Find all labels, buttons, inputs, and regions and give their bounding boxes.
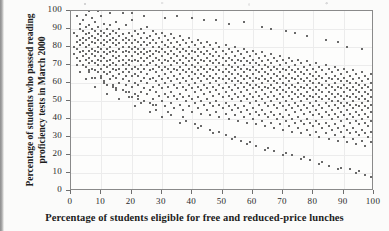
data-point (318, 89, 320, 91)
data-point (167, 96, 169, 98)
data-point (128, 71, 130, 73)
data-point (185, 64, 187, 66)
data-point (218, 116, 220, 118)
data-point (79, 28, 81, 30)
data-point (249, 84, 251, 86)
data-point (118, 60, 120, 62)
data-point (140, 44, 142, 46)
data-point (131, 60, 133, 62)
data-point (125, 75, 127, 77)
data-point (340, 102, 342, 104)
x-axis-tick (282, 190, 283, 194)
data-point (106, 35, 108, 37)
data-point (291, 77, 293, 79)
data-point (325, 87, 327, 89)
data-point (318, 104, 320, 106)
data-point (355, 96, 357, 98)
data-point (197, 69, 199, 71)
data-point (315, 71, 317, 73)
data-point (212, 105, 214, 107)
data-point (91, 48, 93, 50)
y-axis-tick (66, 28, 70, 29)
data-point (158, 37, 160, 39)
data-point (212, 86, 214, 88)
data-point (325, 111, 327, 113)
data-point (334, 113, 336, 115)
data-point (179, 35, 181, 37)
data-point (134, 39, 136, 41)
data-point (252, 96, 254, 98)
data-point (143, 77, 145, 79)
data-point (300, 132, 302, 134)
data-point (100, 15, 102, 17)
data-point (303, 87, 305, 89)
data-point (355, 143, 357, 145)
data-point (94, 55, 96, 57)
data-point (273, 87, 275, 89)
data-point (82, 42, 84, 44)
data-point (85, 46, 87, 48)
data-point (246, 75, 248, 77)
data-point (364, 174, 366, 176)
data-point (370, 104, 372, 106)
x-axis-tick-label: 50 (209, 196, 235, 206)
data-point (112, 84, 114, 86)
data-point (143, 87, 145, 89)
data-point (264, 71, 266, 73)
data-point (103, 82, 105, 84)
data-point (361, 95, 363, 97)
data-point (249, 77, 251, 79)
data-point (300, 71, 302, 73)
data-point (255, 111, 257, 113)
data-point (273, 57, 275, 59)
data-point (234, 104, 236, 106)
data-point (122, 51, 124, 53)
data-point (97, 33, 99, 35)
data-point (300, 109, 302, 111)
data-point (349, 132, 351, 134)
data-point (140, 102, 142, 104)
data-point (118, 68, 120, 70)
data-point (103, 64, 105, 66)
data-point (173, 68, 175, 70)
data-point (152, 46, 154, 48)
x-axis-tick (161, 190, 162, 194)
data-point (318, 113, 320, 115)
data-point (115, 51, 117, 53)
data-point (291, 118, 293, 120)
data-point (100, 55, 102, 57)
data-point (131, 75, 133, 77)
data-point (246, 68, 248, 70)
data-point (103, 23, 105, 25)
data-point (331, 100, 333, 102)
data-point (294, 93, 296, 95)
data-point (231, 138, 233, 140)
data-point (297, 75, 299, 77)
data-point (352, 93, 354, 95)
data-point (361, 109, 363, 111)
data-point (122, 46, 124, 48)
data-point (312, 68, 314, 70)
data-point (258, 64, 260, 66)
data-point (340, 167, 342, 169)
data-point (340, 80, 342, 82)
data-point (109, 64, 111, 66)
x-axis-tick-label: 20 (118, 196, 144, 206)
data-point (294, 102, 296, 104)
data-point (234, 93, 236, 95)
y-axis-tick (66, 136, 70, 137)
data-point (197, 48, 199, 50)
data-point (349, 122, 351, 124)
data-point (209, 82, 211, 84)
data-point (206, 50, 208, 52)
data-point (118, 28, 120, 30)
data-point (222, 71, 224, 73)
data-point (328, 68, 330, 70)
y-axis-tick (66, 64, 70, 65)
data-point (328, 91, 330, 93)
data-point (82, 30, 84, 32)
gridline-horizontal (71, 29, 372, 30)
data-point (367, 136, 369, 138)
data-point (137, 98, 139, 100)
data-point (137, 33, 139, 35)
